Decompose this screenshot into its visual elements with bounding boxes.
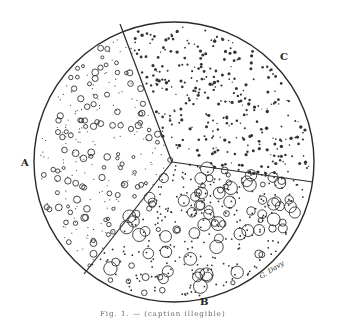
- microscope-field-drawing: [0, 0, 341, 323]
- divider-top: [120, 24, 172, 162]
- label-c: C: [280, 51, 288, 62]
- label-a: A: [21, 157, 29, 168]
- label-b: B: [200, 296, 208, 307]
- figure-caption: Fig. 1. — (caption illegible): [100, 310, 226, 318]
